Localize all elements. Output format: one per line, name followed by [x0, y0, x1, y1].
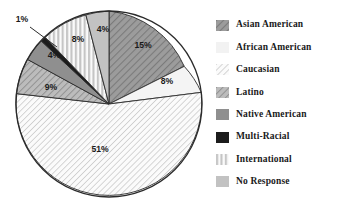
legend-label-caucasian: Caucasian [236, 65, 280, 75]
legend-label-latino: Latino [236, 88, 264, 98]
pie-slice-caucasian[interactable] [16, 92, 202, 195]
legend-item-african-american[interactable]: African American [216, 36, 337, 58]
legend-swatch-caucasian-icon [216, 64, 229, 75]
slice-label-no-response: 4% [97, 24, 110, 34]
legend-item-international[interactable]: International [216, 148, 337, 170]
legend-label-no-response: No Response [236, 177, 290, 187]
legend: Asian American African American Caucasia… [216, 14, 337, 199]
pie-chart-plot-area: 15% 8% 51% 9% 4% 8% 4% 1% [0, 0, 218, 209]
legend-swatch-african-american-icon [216, 42, 229, 53]
slice-label-african-american: 8% [161, 76, 174, 86]
legend-swatch-no-response-icon [216, 176, 229, 187]
slice-label-international: 8% [72, 34, 85, 44]
legend-swatch-international-icon [216, 154, 229, 165]
legend-swatch-latino-icon [216, 87, 229, 98]
legend-label-asian-american: Asian American [236, 20, 303, 30]
pie-slices [16, 11, 202, 197]
legend-label-multi-racial: Multi-Racial [236, 132, 290, 142]
slice-label-asian-american: 15% [134, 40, 152, 50]
pie-chart-figure: 15% 8% 51% 9% 4% 8% 4% 1% Asian American [0, 0, 337, 209]
multi-racial-callout: 1% [16, 14, 57, 47]
legend-item-caucasian[interactable]: Caucasian [216, 59, 337, 81]
legend-item-asian-american[interactable]: Asian American [216, 14, 337, 36]
legend-item-latino[interactable]: Latino [216, 81, 337, 103]
slice-label-caucasian: 51% [91, 144, 109, 154]
pie-chart-svg: 15% 8% 51% 9% 4% 8% 4% 1% [0, 0, 218, 209]
legend-label-international: International [236, 155, 292, 165]
legend-swatch-asian-american-icon [216, 20, 229, 31]
legend-item-multi-racial[interactable]: Multi-Racial [216, 126, 337, 148]
legend-item-native-american[interactable]: Native American [216, 104, 337, 126]
slice-label-native-american: 4% [48, 50, 61, 60]
legend-label-native-american: Native American [236, 110, 307, 120]
legend-label-african-american: African American [236, 43, 311, 53]
legend-swatch-multi-racial-icon [216, 132, 229, 143]
legend-item-no-response[interactable]: No Response [216, 171, 337, 193]
legend-swatch-native-american-icon [216, 109, 229, 120]
slice-label-latino: 9% [45, 82, 58, 92]
callout-label-multi-racial: 1% [16, 14, 29, 24]
